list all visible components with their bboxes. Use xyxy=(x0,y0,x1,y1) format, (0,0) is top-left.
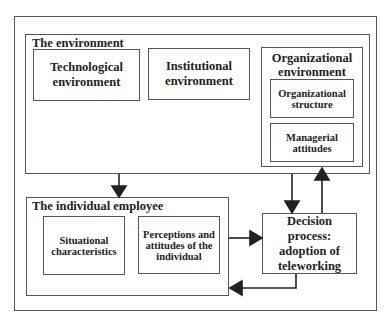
connector-arrows xyxy=(0,0,391,322)
arrowhead-up-icon xyxy=(315,168,329,180)
arrowhead-left-icon xyxy=(230,281,242,295)
arrowhead-down-icon xyxy=(285,201,299,213)
arrowhead-down-icon xyxy=(112,186,126,197)
arrowhead-right-icon xyxy=(250,231,262,245)
arrow-decision-to-individual xyxy=(240,274,296,288)
